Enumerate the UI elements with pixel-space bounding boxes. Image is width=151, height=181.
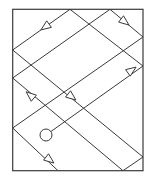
- arrow-icon: [41, 21, 51, 30]
- source-circle-icon: [40, 129, 52, 141]
- arrow-icon: [26, 92, 36, 101]
- light-ray-segment: [13, 37, 143, 128]
- light-source: [40, 129, 52, 141]
- light-ray-segment: [70, 9, 143, 66]
- direction-arrows: [26, 16, 136, 163]
- light-ray-segment: [46, 66, 143, 135]
- light-paths: [13, 9, 143, 170]
- light-ray-segment: [13, 50, 143, 157]
- light-ray-segment: [13, 9, 110, 78]
- light-ray-segment: [123, 157, 143, 171]
- arrow-icon: [66, 91, 76, 100]
- reflection-diagram: [0, 0, 151, 181]
- arrow-icon: [44, 154, 54, 163]
